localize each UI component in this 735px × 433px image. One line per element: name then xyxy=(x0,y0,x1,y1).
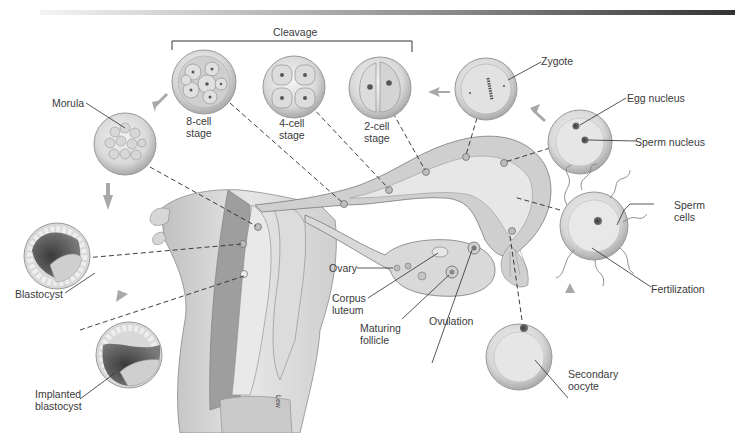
label-maturing-follicle-line1: Maturing xyxy=(360,322,401,334)
label-egg-nucleus: Egg nucleus xyxy=(627,92,685,104)
implanted-blastocyst-cell xyxy=(96,322,162,388)
arrow-down-left-icon xyxy=(152,93,168,112)
label-cleavage: Cleavage xyxy=(273,26,317,38)
label-sperm-cells: Sperm cells xyxy=(674,199,705,223)
egg-nucleus xyxy=(573,123,580,130)
label-4-cell-line1: 4-cell xyxy=(279,117,305,129)
label-corpus-luteum-line1: Corpus xyxy=(332,292,366,304)
egg-with-pronuclei xyxy=(548,110,612,174)
reproductive-tract-diagram xyxy=(0,0,735,433)
arrow-down-right-icon xyxy=(116,290,128,302)
uterus xyxy=(150,190,336,433)
label-2-cell-line2: stage xyxy=(364,132,390,144)
blastocyst-cell xyxy=(24,223,90,289)
label-implanted-blastocyst: Implanted blastocyst xyxy=(35,388,82,412)
label-blastocyst: Blastocyst xyxy=(15,288,63,300)
arrow-left-icon xyxy=(428,87,450,97)
label-secondary-oocyte-line1: Secondary xyxy=(568,368,618,380)
sperm-nucleus xyxy=(582,137,589,144)
label-corpus-luteum-line2: luteum xyxy=(332,304,366,316)
arrow-down-icon xyxy=(103,195,113,210)
label-implanted-blastocyst-line1: Implanted xyxy=(35,388,82,400)
label-implanted-blastocyst-line2: blastocyst xyxy=(35,400,82,412)
stage-4-cell xyxy=(263,56,325,118)
label-secondary-oocyte-line2: oocyte xyxy=(568,380,618,392)
artist-signature: Lew xyxy=(275,395,282,408)
label-ovary: Ovary xyxy=(329,262,357,274)
ligament-stub xyxy=(150,208,170,225)
label-2-cell-stage: 2-cell stage xyxy=(364,120,390,144)
label-8-cell-stage: 8-cell stage xyxy=(186,115,212,139)
label-zygote: Zygote xyxy=(541,55,573,67)
label-8-cell-line2: stage xyxy=(186,127,212,139)
label-8-cell-line1: 8-cell xyxy=(186,115,212,127)
fimbriae xyxy=(501,245,528,287)
zygote-cell xyxy=(455,58,517,120)
label-maturing-follicle: Maturing follicle xyxy=(360,322,401,346)
label-fertilization: Fertilization xyxy=(651,283,705,295)
stage-8-cell xyxy=(172,50,236,114)
label-sperm-nucleus: Sperm nucleus xyxy=(635,136,705,148)
stage-2-cell xyxy=(349,57,411,119)
arrow-up-icon xyxy=(565,283,575,293)
secondary-oocyte xyxy=(486,324,552,390)
morula-cell xyxy=(94,113,156,175)
label-maturing-follicle-line2: follicle xyxy=(360,334,401,346)
label-4-cell-stage: 4-cell stage xyxy=(279,117,305,141)
fertilization-egg xyxy=(556,164,647,286)
label-corpus-luteum: Corpus luteum xyxy=(332,292,366,316)
label-ovulation: Ovulation xyxy=(429,315,473,327)
label-4-cell-line2: stage xyxy=(279,129,305,141)
label-2-cell-line1: 2-cell xyxy=(364,120,390,132)
label-sperm-cells-line1: Sperm xyxy=(674,199,705,211)
label-morula: Morula xyxy=(52,97,84,109)
label-secondary-oocyte: Secondary oocyte xyxy=(568,368,618,392)
label-sperm-cells-line2: cells xyxy=(674,211,705,223)
arrow-up-left-icon xyxy=(530,104,546,122)
